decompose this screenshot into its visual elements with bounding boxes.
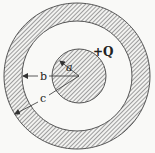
radius-c-label: c bbox=[40, 92, 46, 105]
radius-b-label: b bbox=[40, 70, 47, 83]
charge-label: +Q bbox=[93, 45, 114, 59]
radius-a-label: a bbox=[66, 61, 73, 74]
concentric-spheres-diagram: +Q a b c bbox=[0, 0, 155, 153]
